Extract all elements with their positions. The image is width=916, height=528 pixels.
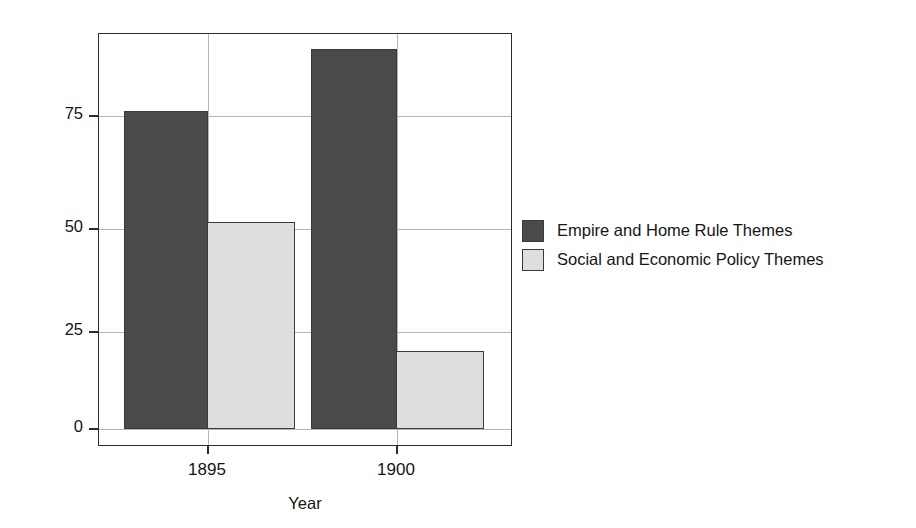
bar-1895-social-economic — [207, 222, 295, 429]
y-tick-label-75: 75 — [65, 104, 83, 123]
x-tick-label-1900: 1900 — [336, 460, 456, 480]
x-tick-label-1895: 1895 — [147, 460, 267, 480]
x-tick-mark-1900 — [396, 446, 398, 454]
gridline-y-0 — [99, 429, 511, 430]
legend-label-empire-home-rule: Empire and Home Rule Themes — [557, 221, 792, 240]
bar-1900-empire-home-rule — [311, 49, 397, 429]
x-axis-title: Year — [98, 494, 512, 513]
y-tick-mark-0 — [89, 428, 98, 430]
legend-label-social-economic: Social and Economic Policy Themes — [557, 250, 824, 269]
y-tick-mark-25 — [89, 331, 98, 333]
y-tick-0: 0 — [0, 428, 98, 429]
y-tick-label-50: 50 — [65, 217, 83, 236]
bar-1900-social-economic — [396, 351, 484, 429]
y-tick-75: 75 — [0, 115, 98, 116]
y-tick-label-25: 25 — [65, 320, 83, 339]
legend-item-social-economic: Social and Economic Policy Themes — [522, 245, 824, 274]
y-tick-50: 50 — [0, 228, 98, 229]
legend-swatch-empire-home-rule — [522, 220, 544, 242]
bar-chart: Percentage of Election Speeches 75 50 25… — [0, 0, 916, 528]
bar-1895-empire-home-rule — [124, 111, 208, 429]
y-tick-mark-75 — [89, 115, 98, 117]
legend-swatch-social-economic — [522, 249, 544, 271]
x-tick-mark-1895 — [207, 446, 209, 454]
legend: Empire and Home Rule Themes Social and E… — [522, 216, 824, 274]
y-tick-label-0: 0 — [74, 417, 83, 436]
legend-item-empire-home-rule: Empire and Home Rule Themes — [522, 216, 824, 245]
y-tick-mark-50 — [89, 228, 98, 230]
plot-area — [98, 33, 512, 446]
y-tick-25: 25 — [0, 331, 98, 332]
